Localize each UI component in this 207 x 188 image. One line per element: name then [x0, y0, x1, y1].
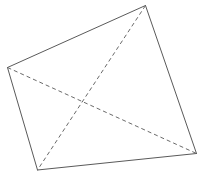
quadrilateral-diagram	[0, 0, 207, 188]
diagonal-left-to-right	[8, 68, 197, 154]
edge-bottom-left-to-left	[8, 68, 38, 171]
edge-right-to-bottom-left	[38, 154, 197, 171]
edge-top-right-to-right	[146, 6, 197, 154]
